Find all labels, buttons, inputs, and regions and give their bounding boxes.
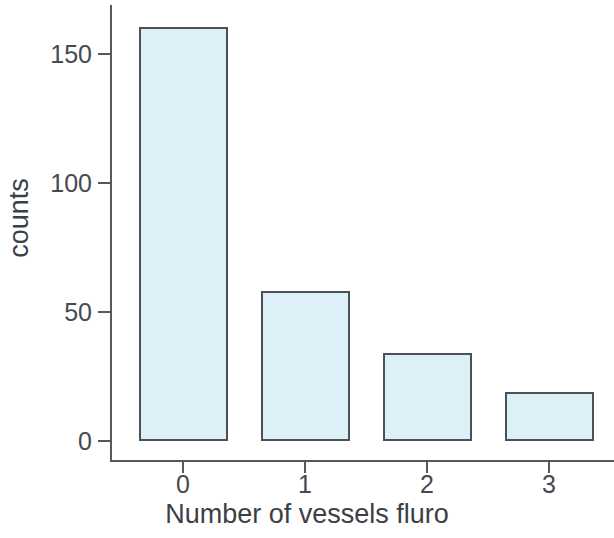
y-axis-tick-100: [98, 182, 110, 184]
y-axis-tick-label-150: 150: [50, 42, 92, 67]
y-axis-tick-label-150-wrap: 150: [0, 42, 92, 67]
y-axis-tick-label-50: 50: [64, 300, 92, 325]
y-axis-tick-0: [98, 440, 110, 442]
x-axis-tick-label-1: 1: [283, 470, 327, 498]
x-axis-tick-label-3: 3: [527, 470, 571, 498]
y-axis-line: [110, 5, 112, 462]
bar-category-2: [383, 353, 472, 441]
x-axis-tick-label-2: 2: [405, 470, 449, 498]
y-axis-title: counts: [4, 158, 34, 278]
bar-category-3: [505, 392, 594, 441]
bar-chart: 150 100 50 0 0 1 2 3 Number of vessels f…: [0, 0, 614, 538]
y-axis-tick-50: [98, 311, 110, 313]
x-axis-title: Number of vessels fluro: [0, 498, 614, 530]
bar-category-1: [261, 291, 350, 441]
x-axis-line: [110, 460, 614, 462]
y-axis-tick-label-50-wrap: 50: [0, 300, 92, 325]
bar-category-0: [139, 27, 228, 441]
x-axis-tick-label-0: 0: [161, 470, 205, 498]
y-axis-tick-label-0-wrap: 0: [0, 429, 92, 454]
y-axis-tick-label-100: 100: [50, 171, 92, 196]
y-axis-tick-label-0: 0: [78, 429, 92, 454]
y-axis-tick-150: [98, 53, 110, 55]
